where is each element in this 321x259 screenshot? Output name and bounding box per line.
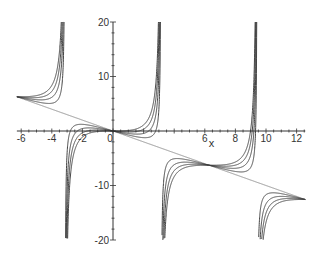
y-tick-label: 10 — [98, 71, 110, 82]
x-tick-label: 10 — [260, 133, 272, 144]
x-tick-label: -6 — [17, 133, 26, 144]
chart: -6-4-20681012 2010-10-20 x — [0, 0, 321, 259]
x-tick-label: 8 — [233, 133, 239, 144]
curve-a-0-5 — [17, 22, 305, 238]
curve-a-1-5 — [17, 22, 305, 239]
curve-a-0 — [17, 97, 305, 200]
x-tick-label: 6 — [202, 133, 208, 144]
x-tick-label: -2 — [78, 133, 87, 144]
x-tick-label: 0 — [107, 133, 113, 144]
y-tick-label: 20 — [98, 17, 110, 28]
y-tick-label: -20 — [95, 235, 110, 246]
x-tick-label: 12 — [291, 133, 303, 144]
x-tick-label: -4 — [47, 133, 56, 144]
y-tick-label: -10 — [95, 180, 110, 191]
x-axis-label: x — [209, 137, 215, 149]
